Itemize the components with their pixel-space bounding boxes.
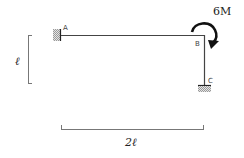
vertical-dimension-label: ℓ xyxy=(15,55,20,68)
horizontal-dimension-bracket xyxy=(61,125,204,130)
node-label-c: C xyxy=(208,77,213,85)
fixed-support-c-icon xyxy=(198,86,211,93)
node-label-a: A xyxy=(63,24,68,32)
horizontal-dimension-label: 2ℓ xyxy=(125,136,137,149)
vertical-dimension-bracket xyxy=(28,35,32,84)
fixed-support-a-icon xyxy=(53,29,61,41)
node-label-b: B xyxy=(195,40,200,48)
moment-label: 6M xyxy=(213,5,231,18)
